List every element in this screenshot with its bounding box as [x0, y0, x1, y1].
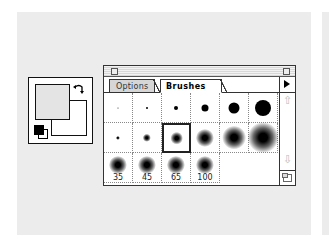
brush-grid: 354565100	[104, 93, 280, 185]
soft-brush-icon	[222, 126, 246, 150]
adjacent-panel	[322, 12, 329, 235]
soft-brush-icon	[248, 122, 279, 153]
soft-brush-icon	[170, 132, 183, 145]
palette-titlebar[interactable]	[104, 66, 295, 77]
brushes-palette: Options Brushes 354565100 ⇧ ⇩	[103, 65, 296, 186]
brush-cell[interactable]	[220, 93, 249, 123]
brush-size-label: 100	[191, 173, 219, 182]
tab-row: Options Brushes	[104, 77, 295, 93]
foreground-color-swatch[interactable]	[35, 84, 70, 120]
hard-brush-icon	[229, 102, 240, 113]
swap-arrows-icon[interactable]	[73, 83, 85, 95]
brush-cell[interactable]: 65	[162, 153, 191, 183]
scroll-up-arrow-icon[interactable]: ⇧	[282, 95, 293, 106]
hard-brush-icon	[255, 100, 271, 116]
brush-cell[interactable]	[249, 93, 278, 123]
hard-brush-icon	[118, 107, 119, 108]
brush-cell[interactable]	[191, 93, 220, 123]
brush-cell[interactable]: 100	[191, 153, 220, 183]
brush-cell[interactable]	[133, 93, 162, 123]
triangle-right-icon	[284, 80, 290, 88]
brush-cell[interactable]	[162, 123, 191, 153]
brush-cell[interactable]: 45	[133, 153, 162, 183]
brush-size-label: 65	[162, 173, 190, 182]
brush-cell[interactable]	[104, 93, 133, 123]
tab-brushes[interactable]: Brushes	[160, 79, 222, 93]
resize-box[interactable]	[280, 170, 295, 185]
soft-brush-icon	[138, 156, 156, 174]
hard-brush-icon	[146, 107, 148, 109]
zoom-box-icon[interactable]	[283, 68, 290, 75]
brush-cell[interactable]	[104, 123, 133, 153]
scroll-down-arrow-icon[interactable]: ⇩	[282, 154, 293, 165]
hard-brush-icon	[202, 104, 209, 111]
empty-brush-cell	[220, 153, 249, 183]
close-box-icon[interactable]	[111, 68, 118, 75]
soft-brush-icon	[196, 128, 214, 146]
soft-brush-icon	[109, 156, 127, 174]
palette-menu-button[interactable]	[279, 77, 295, 92]
color-selection-box	[28, 77, 93, 144]
brush-cell[interactable]: 35	[104, 153, 133, 183]
soft-brush-icon	[143, 133, 151, 141]
soft-brush-icon	[196, 156, 214, 174]
brush-cell[interactable]	[191, 123, 220, 153]
default-colors-icon[interactable]	[34, 125, 44, 135]
hard-brush-icon	[174, 106, 178, 110]
brush-cell[interactable]	[162, 93, 191, 123]
empty-brush-cell	[249, 153, 278, 183]
brush-cell[interactable]	[249, 123, 278, 153]
brush-size-label: 45	[133, 173, 161, 182]
tab-options[interactable]: Options	[109, 79, 155, 92]
soft-brush-icon	[167, 156, 185, 174]
brush-cell[interactable]	[133, 123, 162, 153]
vertical-scrollbar[interactable]: ⇧ ⇩	[279, 93, 295, 185]
brush-cell[interactable]	[220, 123, 249, 153]
brush-size-label: 35	[104, 173, 132, 182]
resize-icon	[283, 174, 292, 182]
soft-brush-icon	[116, 135, 120, 139]
